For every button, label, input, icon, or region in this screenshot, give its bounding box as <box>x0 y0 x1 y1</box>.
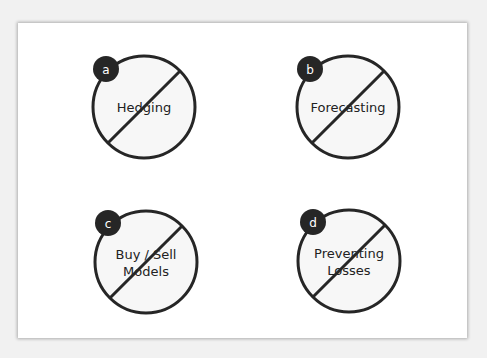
item-b: Forecastingb <box>297 56 399 158</box>
item-a: Hedginga <box>93 56 195 158</box>
badge-letter: d <box>309 216 317 230</box>
item-c: Buy / SellModelsc <box>95 210 197 313</box>
item-label: Buy / Sell <box>116 247 177 262</box>
badge-letter: a <box>102 63 109 77</box>
badge-letter: c <box>105 217 112 231</box>
badge-letter: b <box>306 63 314 77</box>
item-d: PreventingLossesd <box>298 209 400 312</box>
prohibited-items-diagram: Hedginga Forecastingb Buy / SellModelsc … <box>0 0 487 358</box>
item-label: Preventing <box>314 246 384 261</box>
